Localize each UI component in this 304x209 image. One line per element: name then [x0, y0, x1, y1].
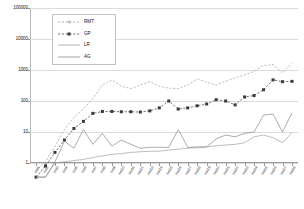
x-axis-tick-label: inst1 — [34, 166, 41, 174]
series-marker-gp — [224, 100, 227, 103]
log-line-chart: 110100100010000100000 inst1inst2inst3ins… — [0, 0, 304, 209]
y-axis-tick-label: 1 — [0, 161, 28, 166]
x-axis-tick-label: inst21 — [223, 166, 231, 176]
x-axis-tick-label: inst26 — [270, 166, 278, 176]
series-marker-gp — [101, 110, 104, 113]
x-axis-tick-label: inst13 — [147, 166, 155, 176]
x-axis-tick-label: inst10 — [119, 166, 127, 176]
legend-label: RMT — [84, 17, 94, 27]
series-marker-gp — [243, 95, 246, 98]
y-axis-tick-label: 100 — [0, 99, 28, 104]
series-marker-gp — [215, 98, 218, 101]
x-axis-tick-label: inst23 — [242, 166, 250, 176]
gridline — [30, 163, 298, 164]
x-axis-tick-label: inst3 — [53, 166, 60, 174]
x-axis-tick-label: inst9 — [110, 166, 117, 174]
legend-swatch-lr — [57, 40, 81, 50]
x-axis-tick-label: inst28 — [289, 166, 297, 176]
x-axis-tick-label: inst24 — [251, 166, 259, 176]
x-axis-tick-label: inst11 — [128, 166, 136, 176]
x-axis-tick-label: inst7 — [91, 166, 98, 174]
series-marker-gp — [53, 151, 56, 154]
x-axis-tick-label: inst12 — [138, 166, 146, 176]
x-axis-tick-label: inst16 — [176, 166, 184, 176]
x-axis-tick-label: inst27 — [280, 166, 288, 176]
x-axis-labels: inst1inst2inst3inst4inst5inst6inst7inst8… — [30, 166, 298, 209]
series-marker-gp — [82, 120, 85, 123]
series-marker-gp — [177, 108, 180, 111]
series-marker-gp — [72, 127, 75, 130]
x-axis-tick-label: inst5 — [72, 166, 79, 174]
series-marker-gp — [186, 106, 189, 109]
x-axis-tick-label: inst18 — [195, 166, 203, 176]
y-axis-tick-label: 10 — [0, 130, 28, 135]
series-marker-gp — [158, 106, 161, 109]
x-axis-tick-label: inst19 — [204, 166, 212, 176]
series-marker-gp — [139, 111, 142, 114]
x-axis-tick-label: inst17 — [185, 166, 193, 176]
series-marker-gp — [291, 80, 294, 83]
x-axis-tick-label: inst8 — [101, 166, 108, 174]
series-marker-gp — [148, 109, 151, 112]
y-axis-tick-label: 10000 — [0, 37, 28, 42]
chart-legend: RMTGPLRAG — [52, 14, 116, 65]
x-axis-tick-label: inst4 — [63, 166, 70, 174]
series-marker-gp — [129, 110, 132, 113]
series-marker-gp — [262, 88, 265, 91]
x-axis-tick-label: inst6 — [82, 166, 89, 174]
series-marker-gp — [110, 110, 113, 113]
series-marker-gp — [120, 110, 123, 113]
legend-item-gp: GP — [57, 29, 113, 39]
series-marker-gp — [91, 112, 94, 115]
legend-label: LR — [84, 40, 90, 50]
x-axis-tick-label: inst2 — [44, 166, 51, 174]
series-marker-gp — [234, 103, 237, 106]
legend-item-rmt: RMT — [57, 17, 113, 27]
legend-label: AG — [84, 52, 91, 62]
series-line-rmt — [36, 63, 292, 171]
series-marker-gp — [167, 100, 170, 103]
y-axis-tick-label: 100000 — [0, 6, 28, 11]
legend-item-ag: AG — [57, 52, 113, 62]
x-axis-tick-label: inst20 — [213, 166, 221, 176]
series-marker-gp — [253, 94, 256, 97]
legend-swatch-rmt — [57, 17, 81, 27]
series-marker-gp — [205, 103, 208, 106]
x-axis-tick-label: inst15 — [166, 166, 174, 176]
x-axis-tick-label: inst22 — [232, 166, 240, 176]
legend-swatch-ag — [57, 52, 81, 62]
legend-label: GP — [84, 29, 91, 39]
series-marker-gp — [196, 104, 199, 107]
series-marker-gp — [281, 80, 284, 83]
y-axis-tick-label: 1000 — [0, 68, 28, 73]
x-axis-tick-label: inst14 — [157, 166, 165, 176]
series-marker-gp — [272, 78, 275, 81]
x-axis-tick-label: inst25 — [261, 166, 269, 176]
legend-item-lr: LR — [57, 40, 113, 50]
legend-swatch-gp — [57, 29, 81, 39]
